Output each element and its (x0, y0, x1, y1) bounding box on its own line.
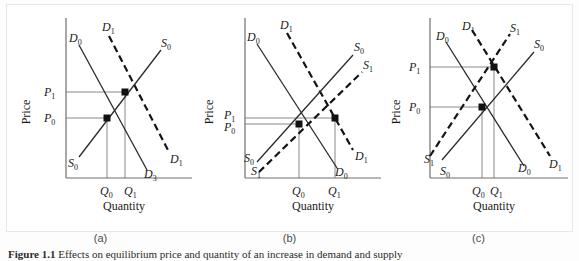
figure-caption: Figure 1.1 Effects on equilibrium price … (8, 248, 573, 260)
panel-a-label-d0-top: D0 (68, 31, 82, 47)
curve-s0 (257, 55, 353, 162)
panel-c-label-s1-top: S1 (510, 21, 520, 37)
panel-c-label-s1-bottom: S1 (424, 152, 434, 168)
panel-c-label-s0-top: S0 (534, 37, 544, 53)
curve-s0 (79, 50, 161, 157)
panel-c-quantity-tick-q1: Q1 (490, 184, 503, 200)
panel-c-guides (430, 67, 494, 178)
panel-c-y-axis-label: Price (389, 100, 403, 125)
panel-a: Price Quantity P1 P0 Q0 Q1 D0 D1 S0 (6, 0, 195, 228)
panel-c-chart: Price Quantity P1 P0 Q0 Q1 D0 D1 S1 (384, 0, 573, 228)
panel-c-label-d1-top: D1 (461, 19, 475, 35)
panel-a-label-s0-top: S0 (161, 36, 171, 52)
panel-a-price-tick-p0: P0 (43, 111, 55, 127)
panel-c-letter: (c) (384, 232, 573, 244)
panel-b-label-d0-bottom: D0 (334, 165, 348, 181)
panel-a-label-s0-bottom: S0 (68, 156, 78, 172)
panel-a-label-d0-bottom: D3 (143, 167, 157, 183)
panel-b-quantity-tick-q1: Q1 (328, 184, 341, 200)
panel-c-equilibria (479, 64, 498, 111)
panel-a-label-d1-top: D1 (101, 20, 115, 36)
panel-a-y-axis-label: Price (19, 100, 33, 125)
panel-a-chart: Price Quantity P1 P0 Q0 Q1 D0 D1 S0 (6, 0, 195, 228)
curve-d0 (79, 45, 147, 170)
panel-c-curves (430, 30, 550, 166)
figure-caption-label: Figure 1.1 (8, 248, 55, 260)
panel-c-price-tick-p0: P0 (408, 100, 420, 116)
panel-a-curves (79, 36, 169, 170)
panel-a-label-d1-bottom: D1 (169, 152, 183, 168)
panel-a-letter: (a) (6, 232, 195, 244)
panel-a-price-tick-p1: P1 (43, 85, 55, 101)
panel-b: Price Quantity P1 P0 Q0 Q1 D0 D1 S0 (195, 0, 384, 228)
panel-c-axes (430, 18, 568, 178)
figure-caption-text: Effects on equilibrium price and quantit… (58, 248, 402, 260)
panel-b-x-axis-label: Quantity (292, 199, 334, 213)
curve-s1 (259, 72, 362, 172)
figure-container: Price Quantity P1 P0 Q0 Q1 D0 D1 S0 (0, 0, 579, 261)
panel-b-label-s1-bottom: S1 (251, 164, 261, 180)
panel-b-label-d1-top: D1 (279, 18, 293, 34)
panel-c: Price Quantity P1 P0 Q0 Q1 D0 D1 S1 (384, 0, 573, 228)
panel-c-price-tick-p1: P1 (408, 60, 420, 76)
panel-c-x-axis-label: Quantity (473, 199, 515, 213)
panel-c-label-s0-bottom: S0 (440, 164, 450, 180)
panel-c-label-d1-bottom: D1 (548, 157, 562, 173)
panel-b-curves (257, 33, 362, 172)
panel-a-quantity-tick-q0: Q0 (100, 184, 113, 200)
panel-a-quantity-tick-q1: Q1 (124, 184, 137, 200)
panel-b-label-s1-top: S1 (363, 58, 373, 74)
panel-b-letter: (b) (195, 232, 384, 244)
panel-b-y-axis-label: Price (202, 100, 216, 125)
panel-b-label-d0-top: D0 (246, 30, 260, 46)
panel-b-chart: Price Quantity P1 P0 Q0 Q1 D0 D1 S0 (195, 0, 384, 228)
panel-c-label-d0-top: D0 (435, 29, 449, 45)
panel-b-label-d1-bottom: D1 (354, 149, 368, 165)
panel-c-label-d0-bottom: D0 (517, 161, 531, 177)
panel-b-quantity-tick-q0: Q0 (292, 184, 305, 200)
curve-d1 (109, 36, 169, 152)
panel-b-guides (245, 118, 335, 178)
panel-a-x-axis-label: Quantity (103, 199, 145, 213)
panel-c-quantity-tick-q0: Q0 (472, 184, 485, 200)
panel-b-label-s0-top: S0 (354, 40, 364, 56)
